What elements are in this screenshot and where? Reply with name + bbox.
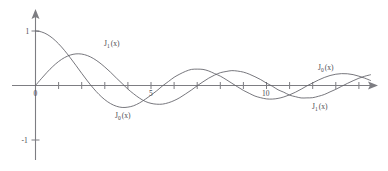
label-j0-upper-right: J0(x)	[318, 63, 334, 73]
curve-labels-group: J1(x)J0(x)J0(x)J1(x)	[104, 39, 334, 121]
label-j0-lower-left: J0(x)	[115, 111, 131, 121]
label-j1-upper-left: J1(x)	[104, 39, 120, 49]
plot-canvas: 05101-1 J1(x)J0(x)J0(x)J1(x)	[0, 0, 388, 171]
x-tick-label-0: 0	[34, 89, 38, 98]
y-tick-label-1: 1	[26, 27, 30, 36]
y-tick-label-neg1: -1	[22, 136, 28, 145]
bessel-functions-figure: 05101-1 J1(x)J0(x)J0(x)J1(x)	[0, 0, 388, 171]
label-j1-lower-right: J1(x)	[312, 102, 328, 112]
x-tick-label-5: 5	[149, 89, 153, 98]
x-tick-label-10: 10	[262, 89, 270, 98]
axes-group	[12, 9, 378, 160]
